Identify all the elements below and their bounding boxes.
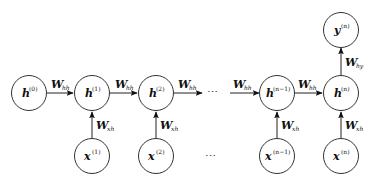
svg-text:xh: xh (356, 125, 363, 132)
svg-text:hy: hy (356, 62, 364, 70)
svg-text:x: x (147, 150, 155, 163)
svg-text:hh: hh (126, 84, 134, 91)
edge-h1-h2: W hh (110, 78, 137, 93)
svg-text:hh: hh (189, 84, 197, 91)
rnn-diagram: W hh W hh W hh ⋯ W hh W hh W xh W xh W x… (0, 0, 373, 186)
node-x2: x (2) (139, 139, 174, 174)
svg-text:xh: xh (292, 125, 299, 132)
node-yn: y (n) (324, 13, 359, 48)
node-xn-minus-1: x (n−1) (260, 139, 295, 174)
svg-text:(n−1): (n−1) (273, 148, 290, 155)
node-hn: h (n) (324, 76, 359, 111)
svg-text:(n): (n) (341, 22, 350, 29)
edge-h0-h1: W hh (47, 78, 73, 93)
svg-text:(n−1): (n−1) (273, 85, 290, 92)
svg-text:(1): (1) (92, 148, 101, 155)
svg-text:hh: hh (244, 84, 252, 91)
node-hn-minus-1: h (n−1) (260, 76, 295, 111)
edge-x1-h1: W xh (92, 112, 114, 138)
svg-text:hh: hh (62, 84, 70, 91)
svg-text:(2): (2) (156, 148, 165, 155)
edge-ellipsis-hn1: W hh (230, 78, 259, 93)
edge-hn-yn: W hy (341, 48, 364, 75)
svg-text:xh: xh (107, 125, 114, 132)
svg-text:(n): (n) (341, 148, 350, 155)
edge-hn1-hn: W hh (295, 78, 322, 93)
svg-text:hh: hh (309, 84, 317, 91)
node-h1: h (1) (75, 76, 110, 111)
svg-text:(2): (2) (156, 85, 165, 92)
edge-xn1-hn1: W xh (277, 112, 299, 138)
node-h2: h (2) (139, 76, 174, 111)
node-xn: x (n) (324, 139, 359, 174)
edge-xn-hn: W xh (341, 112, 363, 138)
ellipsis-hidden: ⋯ (207, 86, 218, 99)
svg-text:x: x (264, 150, 272, 163)
node-h0: h (0) (12, 76, 47, 111)
svg-text:xh: xh (171, 125, 178, 132)
svg-text:(1): (1) (92, 85, 101, 92)
svg-text:(0): (0) (29, 85, 38, 92)
edge-x2-h2: W xh (156, 112, 178, 138)
svg-text:(n): (n) (341, 85, 350, 92)
node-x1: x (1) (75, 139, 110, 174)
edge-h2-ellipsis: W hh (174, 78, 202, 93)
ellipsis-inputs: ⋯ (205, 150, 216, 163)
svg-text:x: x (332, 150, 340, 163)
svg-text:x: x (83, 150, 91, 163)
